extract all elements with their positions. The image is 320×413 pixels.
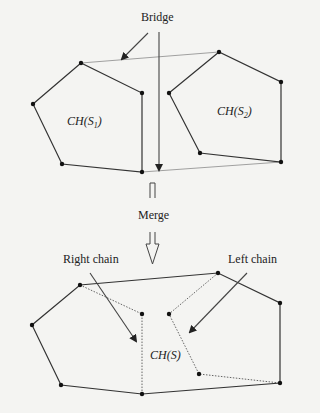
upper-bridge-line	[81, 52, 219, 63]
merged-hull-label: CH(S)	[150, 348, 181, 363]
hull-s1-label: CH(S1)	[67, 114, 102, 130]
bridge-label: Bridge	[141, 10, 174, 25]
merge-label: Merge	[138, 208, 169, 223]
hull-s2-label: CH(S2)	[217, 104, 252, 120]
bridge-arrow-upper	[122, 33, 148, 59]
left-chain-label: Left chain	[228, 252, 277, 267]
lower-bridge-line	[142, 162, 281, 172]
left-chain-dotted	[169, 273, 280, 383]
right-chain-arrow	[90, 273, 136, 341]
left-chain-arrow	[190, 273, 247, 332]
merge-down-arrow-icon	[146, 232, 159, 264]
right-chain-label: Right chain	[63, 252, 119, 267]
merged-hull-vertices	[30, 271, 282, 396]
merge-top-bar-icon	[150, 183, 155, 198]
merged-hull-outline	[32, 273, 280, 394]
right-chain-dotted	[80, 285, 142, 394]
